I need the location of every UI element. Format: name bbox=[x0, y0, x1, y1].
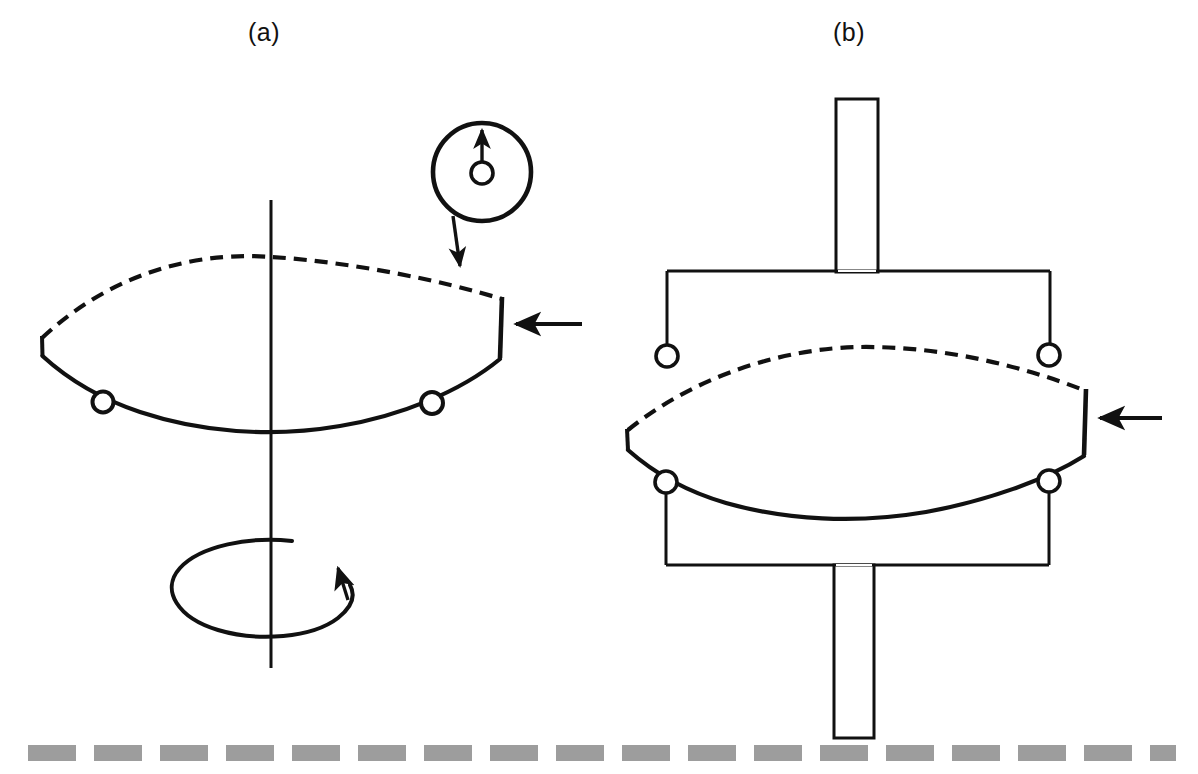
roller-upper-left-icon bbox=[656, 345, 678, 367]
roller-lower-right-icon bbox=[1038, 470, 1060, 492]
panel-a-group bbox=[42, 123, 582, 668]
rotor-left-vertex bbox=[42, 336, 43, 356]
roller-upper-right-icon bbox=[1038, 344, 1060, 366]
upper-shaft bbox=[836, 99, 878, 272]
roller-left-icon bbox=[93, 392, 114, 413]
rotor-right-vertex bbox=[500, 297, 502, 358]
rotation-direction-arrowhead bbox=[338, 568, 348, 600]
detail-pin-circle-icon bbox=[471, 162, 493, 184]
lower-shaft bbox=[834, 565, 874, 738]
roller-right-icon bbox=[421, 392, 443, 414]
callout-leader-line bbox=[453, 216, 460, 266]
technical-diagram-svg bbox=[0, 0, 1198, 774]
panel-b-group bbox=[627, 99, 1162, 738]
roller-lower-left-icon bbox=[655, 471, 677, 493]
rotor-upper-edge-dashed-b bbox=[628, 347, 1086, 430]
rotor-lower-edge-solid-b bbox=[628, 450, 1084, 519]
rotation-direction-ellipse bbox=[172, 540, 353, 637]
rotor-right-vertex-b bbox=[1084, 389, 1086, 455]
rotor-left-vertex-b bbox=[627, 429, 628, 450]
figure-canvas: (a) (b) bbox=[0, 0, 1198, 774]
